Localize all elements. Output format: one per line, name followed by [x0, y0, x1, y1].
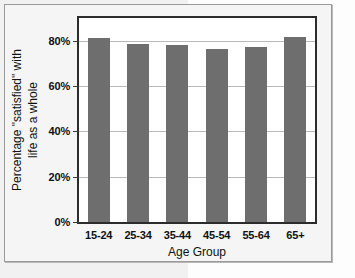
y-axis-tick	[73, 131, 79, 132]
y-axis-title: Percentage "satisfied" with life as a wh…	[9, 16, 69, 224]
x-axis-tick-label: 25-34	[124, 229, 151, 241]
x-axis-tick-label: 55-64	[242, 229, 269, 241]
x-axis-tick-label: 35-44	[164, 229, 191, 241]
x-axis-title: Age Group	[77, 245, 317, 259]
bar	[245, 47, 267, 222]
x-axis-tick-label: 15-24	[85, 229, 112, 241]
plot-inner: 0%20%40%60%80%	[79, 18, 315, 222]
x-axis-tick-label: 65+	[286, 229, 304, 241]
y-axis-tick-label: 40%	[49, 125, 70, 137]
gridline	[79, 177, 315, 178]
y-axis-title-line-1: Percentage "satisfied" with	[9, 16, 25, 224]
y-axis-tick-label: 60%	[49, 80, 70, 92]
bar	[127, 44, 149, 222]
x-axis-tick-label: 45-54	[203, 229, 230, 241]
page-background: Percentage "satisfied" with life as a wh…	[0, 0, 355, 278]
bar	[206, 49, 228, 222]
gridline	[79, 86, 315, 87]
y-axis-tick	[73, 222, 79, 223]
y-axis-tick	[73, 86, 79, 87]
y-axis-tick	[73, 41, 79, 42]
y-axis-tick-label: 0%	[55, 216, 71, 228]
y-axis-tick-label: 80%	[49, 35, 70, 47]
gridline	[79, 41, 315, 42]
bar	[88, 38, 110, 222]
bar	[166, 45, 188, 222]
y-axis-title-line-2: life as a whole	[25, 16, 41, 224]
bar	[284, 37, 306, 222]
gridline	[79, 131, 315, 132]
y-axis-tick-label: 20%	[49, 171, 70, 183]
y-axis-tick	[73, 177, 79, 178]
chart-figure: Percentage "satisfied" with life as a wh…	[4, 4, 332, 262]
plot-area: 0%20%40%60%80%	[77, 16, 317, 224]
